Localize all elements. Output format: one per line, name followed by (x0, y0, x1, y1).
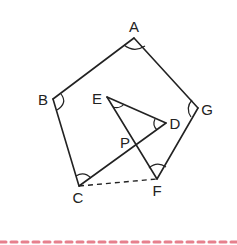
segment-bc (53, 99, 79, 186)
angle-marks-group (57, 45, 192, 178)
segment-cf (79, 179, 157, 186)
angle-mark-c (76, 174, 91, 178)
segment-ag (134, 38, 198, 108)
point-label-d: D (170, 115, 181, 132)
point-label-g: G (201, 101, 213, 118)
point-label-a: A (129, 18, 139, 35)
point-label-b: B (38, 91, 48, 108)
point-label-e: E (92, 90, 102, 107)
angle-mark-g (188, 100, 192, 117)
point-label-c: C (73, 189, 84, 206)
angle-mark-b (57, 94, 64, 110)
point-label-p: P (120, 134, 130, 151)
point-label-f: F (152, 182, 161, 199)
angle-mark-d (154, 119, 157, 130)
geometry-diagram: ABCFGEDP (0, 0, 237, 245)
segment-cd (79, 123, 166, 186)
segment-ef (107, 97, 157, 179)
segments-group (53, 38, 198, 186)
